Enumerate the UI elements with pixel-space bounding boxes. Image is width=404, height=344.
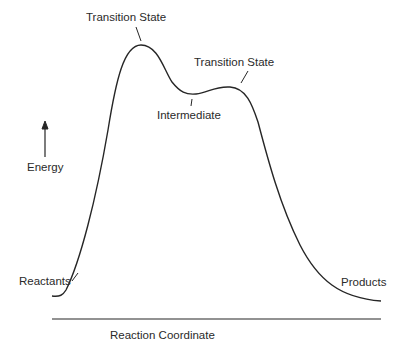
energy-diagram: Transition State Transition State Interm…: [0, 0, 404, 344]
ts2-leader-line: [241, 71, 248, 83]
transition-state-1-label: Transition State: [86, 12, 166, 24]
energy-arrow-head: [42, 121, 48, 129]
intermediate-label: Intermediate: [157, 110, 221, 122]
reaction-coordinate-label: Reaction Coordinate: [110, 330, 215, 342]
reactants-label: Reactants: [19, 276, 71, 288]
transition-state-2-label: Transition State: [194, 57, 274, 69]
energy-label: Energy: [27, 162, 63, 174]
products-label: Products: [341, 277, 386, 289]
energy-curve: [52, 45, 381, 301]
ts1-leader-line: [136, 27, 141, 41]
intermediate-leader-line: [191, 99, 192, 106]
